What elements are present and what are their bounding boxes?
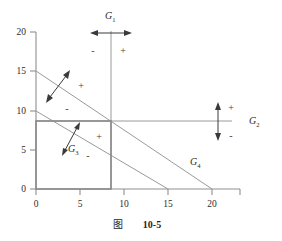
x-ticklabel-10: 10 — [119, 199, 129, 209]
tick-labels-group: 20 15 10 5 0 0 5 10 15 20 — [17, 27, 218, 209]
curve-label-g4: G4 — [190, 156, 201, 169]
curve-label-g2-text: G — [249, 115, 256, 126]
g2-plus-sign: + — [228, 102, 234, 113]
curve-label-g1-text: G — [105, 10, 112, 21]
caption-label: 图 — [113, 219, 123, 230]
curve-label-g3-text: G — [68, 143, 75, 154]
axes-group — [30, 32, 240, 195]
g4-minus-sign: - — [65, 103, 68, 114]
x-ticklabel-20: 20 — [207, 199, 217, 209]
curve-label-g1-sub: 1 — [112, 16, 115, 23]
x-ticklabel-5: 5 — [78, 199, 83, 209]
g4-direction-arrow — [46, 70, 70, 103]
y-ticklabel-10: 10 — [17, 106, 27, 116]
g4-plus-sign: + — [78, 80, 84, 91]
figure-10-5: 20 15 10 5 0 0 5 10 15 20 — [0, 0, 282, 241]
y-ticklabel-5: 5 — [21, 145, 26, 155]
curve-label-g3: G3 — [68, 143, 78, 156]
constraint-plot-svg: 20 15 10 5 0 0 5 10 15 20 — [0, 0, 282, 241]
constraint-line-g4 — [36, 71, 212, 189]
y-ticklabel-20: 20 — [17, 27, 27, 37]
direction-arrows-group — [46, 30, 221, 156]
caption-number: 10-5 — [143, 219, 161, 230]
curve-label-g3-sub: 3 — [75, 149, 78, 156]
y-ticklabel-0: 0 — [21, 184, 26, 194]
curve-label-g1: G1 — [105, 10, 115, 23]
x-ticklabel-0: 0 — [34, 199, 39, 209]
g3-minus-sign: - — [86, 150, 89, 161]
curve-label-g2: G2 — [249, 115, 259, 128]
curve-label-g4-sub: 4 — [197, 162, 201, 169]
g3-plus-sign: + — [96, 131, 102, 142]
y-ticklabel-15: 15 — [17, 66, 27, 76]
curve-label-g2-sub: 2 — [256, 121, 259, 128]
g1-plus-sign: + — [120, 45, 126, 56]
figure-caption: 图 10-5 — [113, 219, 161, 230]
curve-label-g4-text: G — [190, 156, 197, 167]
g2-minus-sign: - — [229, 130, 232, 141]
x-ticklabel-15: 15 — [163, 199, 173, 209]
constraint-line-g3 — [36, 111, 168, 189]
g1-minus-sign: - — [91, 45, 94, 56]
